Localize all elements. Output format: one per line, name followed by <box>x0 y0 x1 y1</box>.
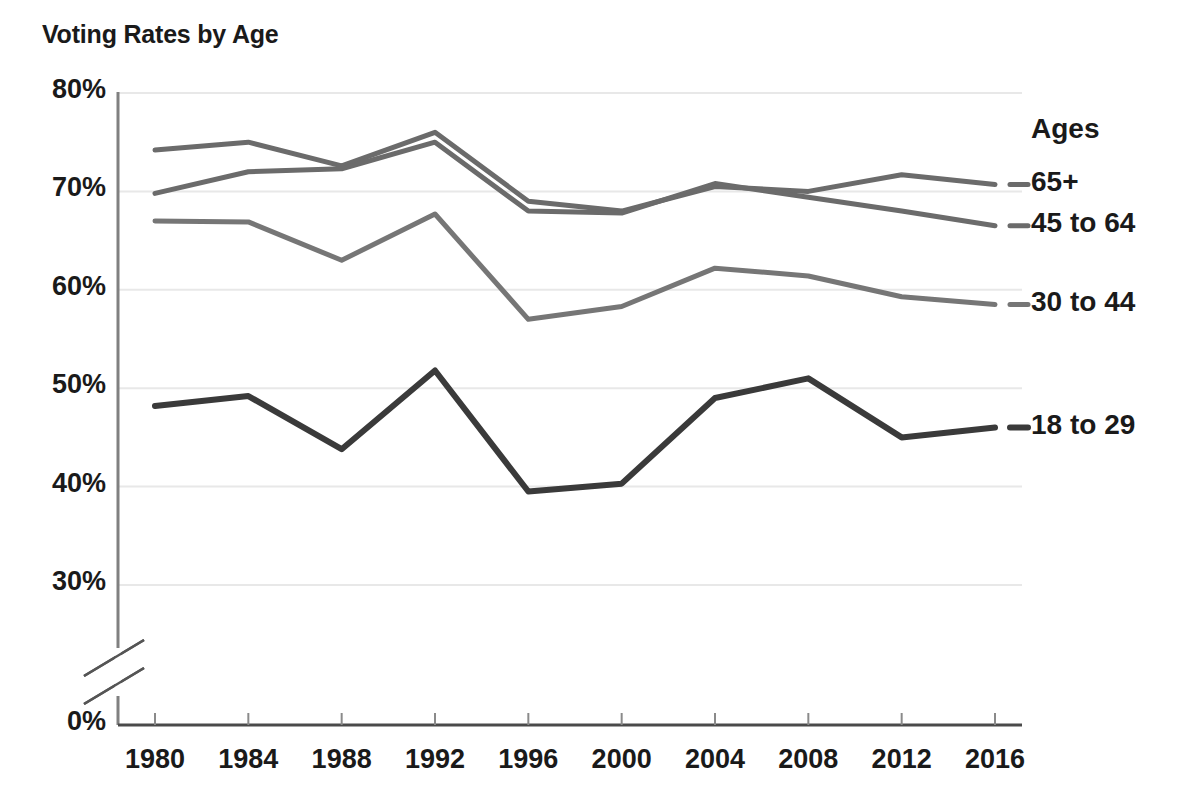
y-axis-tick-label: 0% <box>6 706 106 737</box>
y-axis-tick-label: 40% <box>6 468 106 499</box>
legend-label-30-to-44: 30 to 44 <box>1031 286 1135 318</box>
y-axis-tick-label: 50% <box>6 369 106 400</box>
gridlines-group <box>118 93 1022 585</box>
line-chart-plot <box>0 0 1181 809</box>
legend-label-65+: 65+ <box>1031 166 1079 198</box>
x-axis-tick-label: 2016 <box>940 744 1050 775</box>
axis-lines-group <box>118 92 1022 725</box>
y-axis-tick-label: 60% <box>6 271 106 302</box>
series-paths-group <box>155 132 995 491</box>
chart-container: Voting Rates by Age 80%70%60%50%40%30%0%… <box>0 0 1181 809</box>
series-line-45-to-64 <box>155 142 995 226</box>
y-axis-tick-label: 70% <box>6 172 106 203</box>
y-axis-tick-label: 80% <box>6 74 106 105</box>
y-axis-tick-label: 30% <box>6 566 106 597</box>
legend-swatch-group <box>1010 185 1028 428</box>
series-line-30-to-44 <box>155 214 995 319</box>
legend-label-18-to-29: 18 to 29 <box>1031 409 1135 441</box>
legend-title: Ages <box>1031 113 1099 145</box>
legend-label-45-to-64: 45 to 64 <box>1031 207 1135 239</box>
axis-break-icon <box>84 640 144 704</box>
